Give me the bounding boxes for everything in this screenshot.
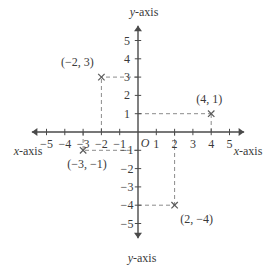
coordinate-plane-figure: −5−4−3−2−112345 54321−1−2−3−4−5 O x-axis… — [0, 0, 275, 270]
y-tick-label: 3 — [124, 70, 130, 85]
y-tick-label: 2 — [124, 88, 130, 103]
y-tick-label: 1 — [124, 106, 130, 121]
point-label: (4, 1) — [196, 91, 222, 106]
x-tick-label: −2 — [95, 137, 108, 152]
origin-label: O — [141, 136, 150, 151]
y-tick-label: 5 — [124, 33, 130, 48]
point-label: (2, −4) — [180, 212, 213, 227]
x-axis-label-left: x-axis — [14, 144, 43, 159]
x-tick-label: 2 — [172, 137, 178, 152]
y-axis-label-bottom: y-axis — [128, 251, 157, 266]
y-tick-label: 4 — [124, 51, 130, 66]
x-tick-label: 5 — [227, 137, 233, 152]
y-axis-label-top: y-axis — [130, 5, 159, 20]
x-tick-label: −4 — [58, 137, 71, 152]
x-tick-label: 3 — [190, 137, 196, 152]
x-tick-label: 1 — [153, 137, 159, 152]
y-tick-label: −4 — [121, 198, 134, 213]
x-axis-label-right: x-axis — [234, 144, 263, 159]
y-tick-label: −2 — [121, 161, 134, 176]
y-tick-label: −3 — [121, 179, 134, 194]
coordinate-plane-svg — [0, 0, 275, 270]
point-label: (−2, 3) — [61, 55, 94, 70]
y-tick-label: −1 — [121, 143, 134, 158]
point-label: (−3, −1) — [67, 157, 107, 172]
x-tick-label: −3 — [77, 137, 90, 152]
x-tick-label: 4 — [208, 137, 214, 152]
y-tick-label: −5 — [121, 216, 134, 231]
